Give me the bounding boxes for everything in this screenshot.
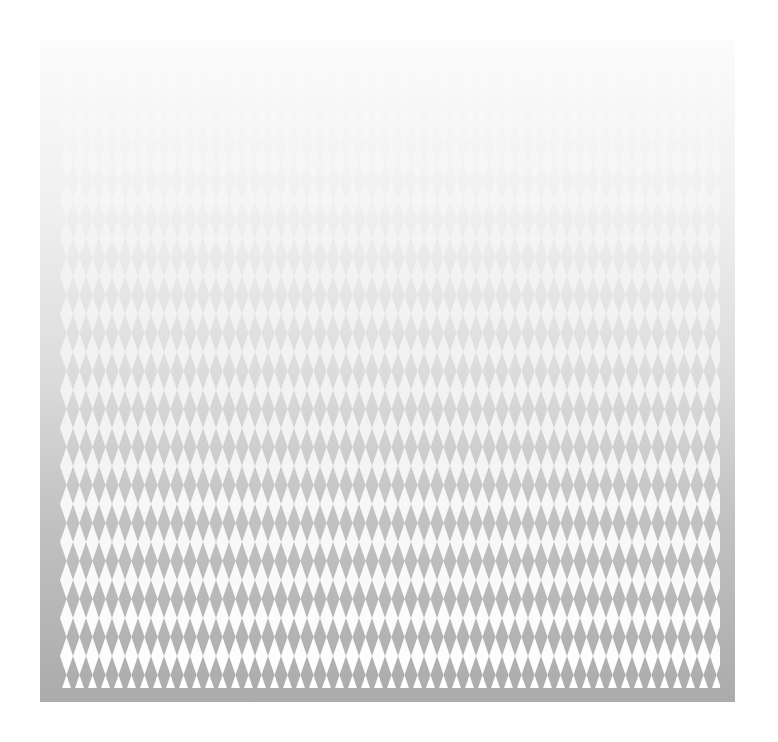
pattern-frame: [40, 40, 735, 702]
spike-pattern-graphic: [60, 48, 720, 688]
spike-bands: [60, 48, 720, 688]
